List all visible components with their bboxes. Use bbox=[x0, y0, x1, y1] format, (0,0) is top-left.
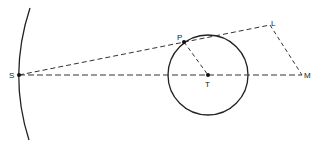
point-T bbox=[206, 73, 210, 77]
label-T: T bbox=[205, 80, 210, 89]
label-M: M bbox=[304, 71, 311, 80]
diagram-canvas: S P T L M bbox=[0, 0, 318, 148]
line-L-M bbox=[270, 25, 302, 75]
line-P-T bbox=[184, 42, 208, 75]
line-S-L bbox=[19, 25, 270, 75]
point-P bbox=[182, 40, 186, 44]
point-S bbox=[17, 73, 21, 77]
label-L: L bbox=[271, 19, 276, 28]
label-S: S bbox=[9, 71, 14, 80]
label-P: P bbox=[177, 33, 182, 42]
